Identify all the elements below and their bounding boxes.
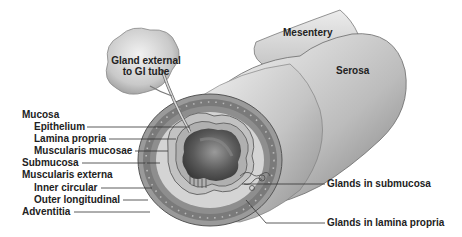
label-adventitia: Adventitia <box>22 206 70 217</box>
label-mesentery: Mesentery <box>283 27 332 38</box>
label-glands-lamina-propria: Glands in lamina propria <box>327 217 444 228</box>
label-muscularis-mucosae: Muscularis mucosae <box>34 145 132 156</box>
label-epithelium: Epithelium <box>34 121 85 132</box>
label-submucosa: Submucosa <box>22 157 79 168</box>
label-inner-circular: Inner circular <box>34 182 97 193</box>
label-mucosa: Mucosa <box>22 109 59 120</box>
label-gland-external: Gland external to GI tube <box>96 55 196 77</box>
gi-tube-diagram: Gland external to GI tube Mesentery Sero… <box>0 0 462 237</box>
label-gland-external-line2: to GI tube <box>96 66 196 77</box>
label-muscularis-externa: Muscularis externa <box>22 169 113 180</box>
label-outer-longitudinal: Outer longitudinal <box>34 194 120 205</box>
label-serosa: Serosa <box>336 65 369 76</box>
label-lamina-propria: Lamina propria <box>34 133 106 144</box>
label-gland-external-line1: Gland external <box>96 55 196 66</box>
label-glands-submucosa: Glands in submucosa <box>327 178 431 189</box>
